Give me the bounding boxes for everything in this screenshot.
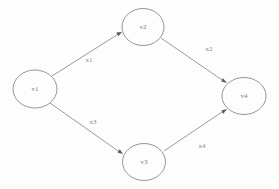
edge-group-x3[interactable] xyxy=(50,103,123,154)
node-v2[interactable]: v2 xyxy=(122,9,164,46)
edge-line-x1 xyxy=(52,33,120,76)
node-label-v1: v1 xyxy=(32,85,40,93)
edge-label-x3: x3 xyxy=(90,118,98,126)
edge-line-x2 xyxy=(161,38,225,82)
edge-line-x3 xyxy=(50,103,121,153)
arrowhead-x1 xyxy=(116,32,122,36)
edge-line-x4 xyxy=(164,110,225,151)
graph-svg: v1 v2 v3 v4 x1 x2 x3 x4 xyxy=(0,0,279,189)
edge-group-x4[interactable] xyxy=(164,109,227,151)
node-v3[interactable]: v3 xyxy=(123,144,166,181)
diagram-canvas: v1 v2 v3 v4 x1 x2 x3 x4 xyxy=(0,0,279,189)
arrowhead-x4 xyxy=(221,109,227,114)
edge-group-x2[interactable] xyxy=(161,38,227,83)
node-v1[interactable]: v1 xyxy=(13,70,57,108)
node-label-v3: v3 xyxy=(141,158,149,166)
arrowhead-x3 xyxy=(117,149,123,154)
node-v4[interactable]: v4 xyxy=(222,78,266,115)
edge-group-x1[interactable] xyxy=(52,32,122,76)
edge-label-x4: x4 xyxy=(199,142,207,150)
arrowhead-x2 xyxy=(221,78,227,83)
node-label-v4: v4 xyxy=(241,92,249,100)
edge-label-x1: x1 xyxy=(86,56,94,64)
edge-label-x2: x2 xyxy=(206,45,214,53)
node-label-v2: v2 xyxy=(140,23,148,31)
